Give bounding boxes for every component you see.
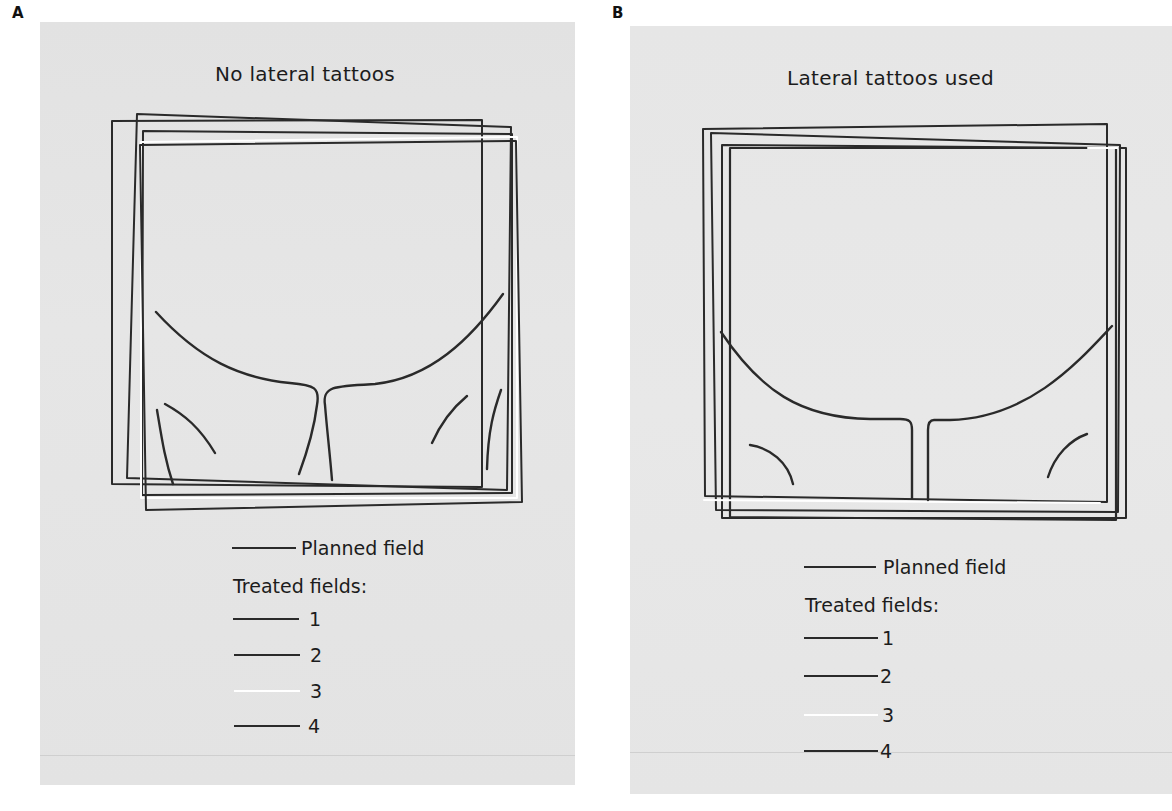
legend-treated-2: 2 <box>234 644 322 666</box>
treated-field-4-outline <box>730 148 1116 520</box>
panel-a-field-outlines <box>112 114 522 510</box>
legend-label: 4 <box>880 740 892 762</box>
treated-field-1-swatch <box>233 618 299 620</box>
treated-field-2-swatch <box>234 654 300 656</box>
legend-heading: Treated fields: <box>233 575 367 597</box>
legend-treated-2: 2 <box>804 665 892 687</box>
treated-field-2-swatch <box>804 675 878 677</box>
planned-field-swatch <box>804 566 876 568</box>
legend-label: Planned field <box>301 537 424 559</box>
legend-planned-field: Planned field <box>232 537 424 559</box>
legend-treated-1: 1 <box>804 627 894 649</box>
legend-treated-heading: Treated fields: <box>805 594 939 616</box>
planned-field-swatch <box>232 547 296 549</box>
legend-treated-heading: Treated fields: <box>233 575 367 597</box>
treated-field-3-swatch <box>234 690 300 692</box>
panel-b-anatomy <box>721 326 1112 500</box>
panel-a-anatomy <box>156 294 503 484</box>
field-diagrams <box>0 0 1172 811</box>
planned-field-outline <box>112 120 482 487</box>
legend-label: 4 <box>308 715 320 737</box>
treated-field-4-outline <box>140 141 522 510</box>
treated-field-2-outline <box>142 131 512 495</box>
legend-treated-1: 1 <box>233 608 321 630</box>
legend-label: 1 <box>309 608 321 630</box>
legend-planned-field: Planned field <box>804 556 1006 578</box>
legend-treated-3: 3 <box>804 704 894 726</box>
legend-label: 2 <box>310 644 322 666</box>
legend-treated-4: 4 <box>804 740 892 762</box>
legend-label: 1 <box>882 627 894 649</box>
treated-field-4-swatch <box>804 750 878 752</box>
panel-b-field-outlines <box>703 124 1126 520</box>
legend-heading: Treated fields: <box>805 594 939 616</box>
legend-label: 3 <box>882 704 894 726</box>
legend-treated-4: 4 <box>234 715 320 737</box>
legend-label: 3 <box>310 680 322 702</box>
legend-treated-3: 3 <box>234 680 322 702</box>
legend-label: 2 <box>880 665 892 687</box>
treated-field-4-swatch <box>234 725 300 727</box>
treated-field-1-outline <box>127 114 511 490</box>
treated-field-3-swatch <box>804 714 878 716</box>
legend-label: Planned field <box>883 556 1006 578</box>
planned-field-outline <box>703 124 1107 502</box>
treated-field-1-swatch <box>804 637 878 639</box>
